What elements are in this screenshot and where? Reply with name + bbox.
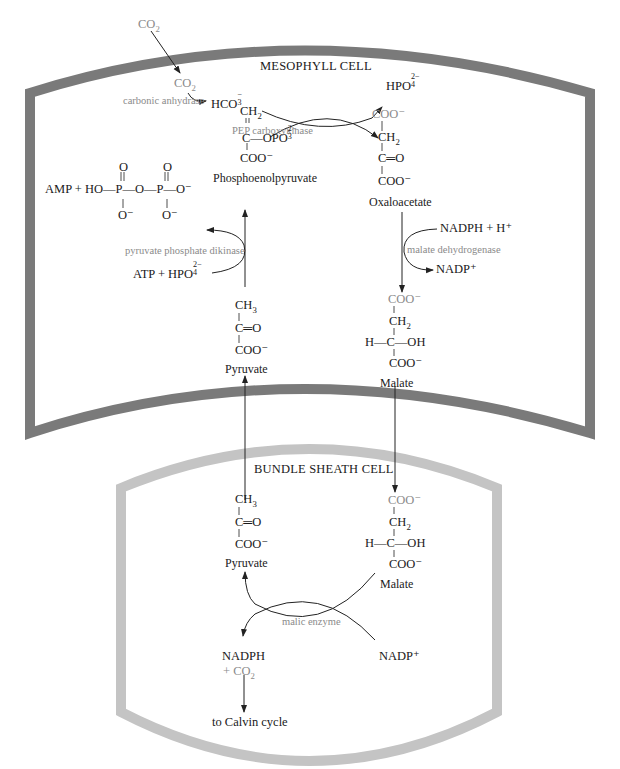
bs-pyruvate-ch3: CH3 <box>235 493 257 506</box>
plus-co2-text: + CO <box>223 664 251 678</box>
subscript: 3 <box>252 499 256 509</box>
ch3-text: CH <box>235 492 252 506</box>
pyruvate-coo: COO⁻ <box>235 344 268 357</box>
pyrophosphate-o-bottom-2: O⁻ <box>162 209 178 222</box>
co2-inside-text: CO <box>174 76 191 90</box>
bs-malate-coo-top: COO⁻ <box>388 494 421 507</box>
subscript: 2 <box>155 24 159 34</box>
hydrogen-phosphate-product: HPO2−4 <box>386 77 426 92</box>
subscript: 2 <box>406 321 410 331</box>
ch3-text: CH <box>235 298 252 312</box>
malic-enzyme-label: malic enzyme <box>282 617 341 628</box>
pep-coo: COO⁻ <box>240 152 273 165</box>
atp-hpo4: ATP + HPO2−4 <box>133 265 208 280</box>
bundle-sheath-cell-label: BUNDLE SHEATH CELL <box>254 463 394 476</box>
to-calvin-cycle-label: to Calvin cycle <box>212 716 288 729</box>
mesophyll-cell-label: MESOPHYLL CELL <box>260 60 372 73</box>
nadph-bundle: NADPH <box>222 650 265 663</box>
carbonic-anhydrase-label: carbonic anhydrase <box>123 96 204 107</box>
subscript: 2 <box>251 671 255 681</box>
bundle-sheath-cell-border <box>121 449 497 761</box>
mesophyll-cell-border <box>30 51 590 434</box>
ch2-text: CH <box>389 314 406 328</box>
malate-hcoh: H—C—OH <box>365 336 425 349</box>
bs-malate-label: Malate <box>380 578 413 590</box>
hpo4-text: HPO <box>386 79 411 93</box>
pyruvate-ch3: CH3 <box>235 299 257 312</box>
plus-co2: + CO2 <box>223 665 255 678</box>
malate-coo-top: COO⁻ <box>388 293 421 306</box>
subscript: 2 <box>191 83 195 93</box>
ch2-text: CH <box>378 130 395 144</box>
oxaloacetate-ch2: CH2 <box>378 131 400 144</box>
co2-inside: CO2 <box>174 77 196 90</box>
subscript: 2 <box>406 522 410 532</box>
diagram-canvas <box>0 0 620 769</box>
subscript: 3 <box>252 305 256 315</box>
nadph-h: NADPH + H⁺ <box>440 222 512 235</box>
bs-malate-ch2: CH2 <box>389 516 411 529</box>
bs-pyruvate-label: Pyruvate <box>225 557 268 569</box>
atp-hpo4-text: ATP + HPO <box>133 267 193 281</box>
pep-carboxykinase-arrow-1 <box>262 107 382 127</box>
pyrophosphate-o-bottom-1: O⁻ <box>118 209 134 222</box>
bs-pyruvate-c-o: C═O <box>235 516 261 529</box>
amp-pyrophosphate: AMP + HO—P—O—P—O⁻ <box>45 183 192 196</box>
co2-outside-text: CO <box>138 17 155 31</box>
co2-outside: CO2 <box>138 18 160 31</box>
malate-dehydrogenase-label: malate dehydrogenase <box>407 245 501 256</box>
pep-c-opo3-text: C—OPO <box>242 131 288 145</box>
nadp-mesophyll: NADP⁺ <box>436 263 477 276</box>
pyrophosphate-o-top-2: O <box>163 161 172 174</box>
subscript: 2 <box>395 137 399 147</box>
sub: 3 <box>288 133 292 141</box>
sub: 4 <box>193 269 197 277</box>
sub-sup: 2−4 <box>193 265 208 278</box>
pyrophosphate-o-top-1: O <box>119 161 128 174</box>
malate-coo: COO⁻ <box>389 357 422 370</box>
malate-ch2: CH2 <box>389 315 411 328</box>
oxaloacetate-coo-top: COO⁻ <box>372 108 405 121</box>
sub: 4 <box>411 81 415 89</box>
oxaloacetate-c-o: C═O <box>378 152 404 165</box>
sub-sup: 2−3 <box>288 129 303 142</box>
oxaloacetate-coo: COO⁻ <box>378 175 411 188</box>
pep-ch2: CH2 <box>240 105 262 118</box>
pyruvate-label: Pyruvate <box>225 363 268 375</box>
nadp-bundle: NADP⁺ <box>379 650 420 663</box>
sub-sup: 2−4 <box>411 77 426 90</box>
phosphoenolpyruvate-label: Phosphoenolpyruvate <box>213 172 317 184</box>
bs-malate-hcoh: H—C—OH <box>365 537 425 550</box>
pyruvate-c-o: C═O <box>235 322 261 335</box>
bs-pyruvate-coo: COO⁻ <box>235 538 268 551</box>
oxaloacetate-label: Oxaloacetate <box>369 196 432 208</box>
pyruvate-phosphate-dikinase-label: pyruvate phosphate dikinase <box>125 246 245 257</box>
pep-c-opo3: C—OPO2−3 <box>242 129 303 144</box>
ch2-text: CH <box>389 515 406 529</box>
malate-label: Malate <box>380 377 413 389</box>
bicarbonate-text: HCO <box>211 97 237 111</box>
pep-ch2-text: CH <box>240 104 257 118</box>
bs-malate-coo: COO⁻ <box>389 558 422 571</box>
subscript: 2 <box>257 111 261 121</box>
